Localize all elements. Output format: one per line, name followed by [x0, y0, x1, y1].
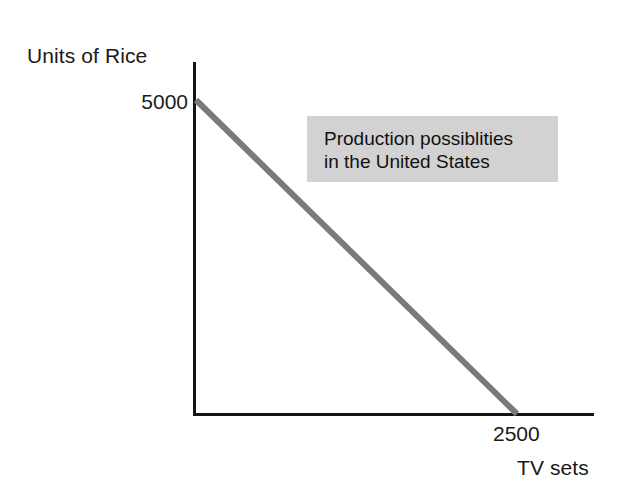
y-axis-tick-5000: 5000: [88, 90, 188, 114]
annotation-line-1: Production possiblities: [324, 127, 558, 150]
x-axis-label: TV sets: [517, 456, 589, 480]
y-axis-label: Units of Rice: [27, 44, 147, 68]
ppf-annotation-box: Production possiblities in the United St…: [307, 116, 558, 182]
annotation-line-2: in the United States: [324, 150, 558, 173]
x-axis-tick-2500: 2500: [493, 422, 540, 446]
x-axis-line: [193, 413, 594, 416]
ppf-chart: Units of Rice 5000 Production possibliti…: [0, 0, 619, 497]
y-axis-line: [193, 62, 196, 416]
